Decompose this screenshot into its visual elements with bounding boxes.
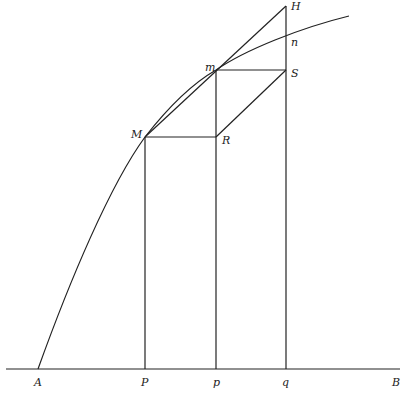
curve [38,16,349,369]
label-p: p [213,376,220,389]
label-P: P [140,376,149,389]
label-q: q [282,376,289,389]
diagram-canvas: A P p q B M R m S n H [0,0,408,394]
label-n: n [291,36,298,49]
label-M: M [130,128,143,141]
label-H: H [290,0,301,13]
segment-RS [216,70,286,137]
label-m: m [205,61,215,74]
label-B: B [391,376,400,389]
label-S: S [291,67,299,80]
label-A: A [33,376,42,389]
label-R: R [221,134,230,147]
